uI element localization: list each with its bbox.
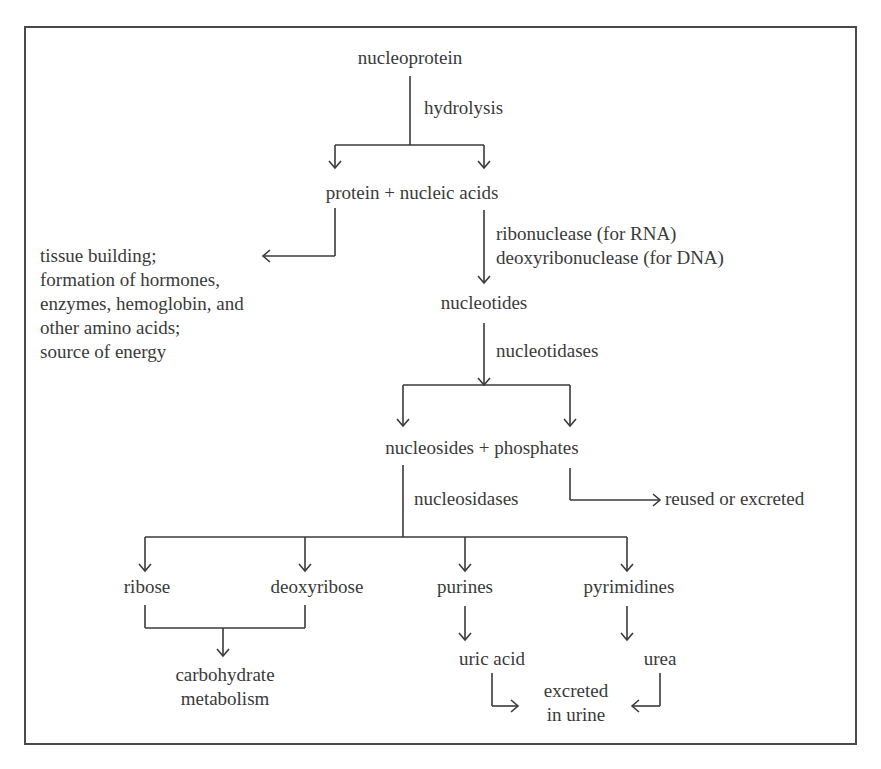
label-nucleotidases: nucleotidases	[496, 340, 598, 362]
node-urea: urea	[644, 648, 677, 670]
tissue-line-5: source of energy	[40, 341, 166, 363]
arrow-protein-to-tissue	[263, 208, 335, 262]
node-nucleosides-phosphates: nucleosides + phosphates	[385, 437, 578, 459]
arrow-hydrolysis-split	[329, 76, 490, 168]
arrow-uric-acid-to-excreted	[492, 673, 518, 712]
node-deoxyribose: deoxyribose	[271, 576, 364, 598]
arrow-nucleosidases-split	[139, 465, 633, 571]
node-nucleotides: nucleotides	[441, 292, 528, 314]
node-reused-or-excreted: reused or excreted	[665, 488, 804, 510]
label-deoxyribonuclease: deoxyribonuclease (for DNA)	[496, 247, 724, 269]
tissue-line-3: enzymes, hemoglobin, and	[40, 293, 244, 315]
label-nucleosidases: nucleosidases	[414, 488, 518, 510]
arrow-nucleic-to-nucleotides	[478, 210, 490, 283]
tissue-line-1: tissue building;	[40, 245, 157, 267]
label-ribonuclease: ribonuclease (for RNA)	[496, 223, 676, 245]
tissue-line-4: other amino acids;	[40, 317, 180, 339]
arrow-urea-to-excreted	[632, 673, 660, 712]
node-excreted-line-1: excreted	[544, 680, 608, 702]
tissue-line-2: formation of hormones,	[40, 269, 220, 291]
label-hydrolysis: hydrolysis	[424, 97, 503, 119]
node-nucleoprotein: nucleoprotein	[358, 47, 462, 69]
arrow-nucleotidases-split	[397, 323, 576, 426]
arrow-pyrimidines-to-urea	[621, 606, 633, 640]
arrow-sugars-to-carbohydrate	[145, 605, 305, 656]
node-carbohydrate-line-1: carbohydrate	[175, 664, 274, 686]
node-uric-acid: uric acid	[459, 648, 525, 670]
node-protein-nucleic-acids: protein + nucleic acids	[326, 182, 499, 204]
node-pyrimidines: pyrimidines	[584, 576, 675, 598]
node-purines: purines	[437, 576, 493, 598]
arrow-phosphates-to-reused	[570, 468, 660, 506]
node-ribose: ribose	[124, 576, 170, 598]
node-excreted-line-2: in urine	[547, 704, 606, 726]
node-carbohydrate-line-2: metabolism	[181, 688, 270, 710]
arrow-purines-to-uric-acid	[459, 606, 471, 640]
